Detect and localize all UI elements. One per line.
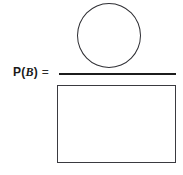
event-variable: B <box>25 65 33 79</box>
fraction-expression <box>57 0 177 170</box>
event-b-circle-shape <box>77 3 141 68</box>
fraction-numerator <box>57 0 177 73</box>
probability-function-name: P <box>13 65 21 79</box>
formula-label: P(B)= <box>13 64 49 80</box>
probability-diagram: P(B)= <box>0 0 183 175</box>
sample-space-rectangle-shape <box>57 85 176 163</box>
close-paren: ) <box>34 65 38 79</box>
fraction-denominator <box>57 85 177 164</box>
fraction-bar <box>59 73 176 75</box>
equals-sign: = <box>42 65 49 79</box>
